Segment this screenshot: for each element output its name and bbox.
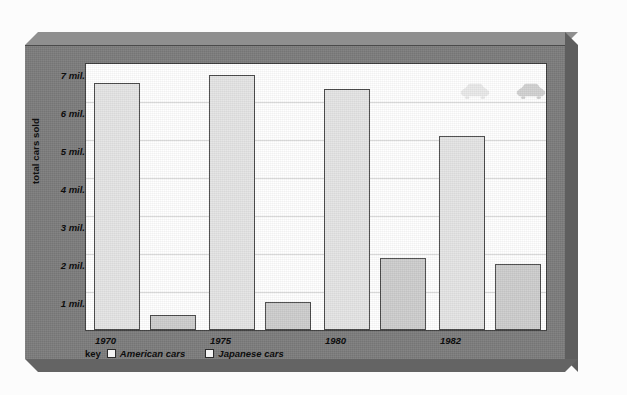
- bar-1980-american: [324, 89, 370, 330]
- chart-legend: key American cars Japanese cars: [85, 348, 284, 359]
- x-tick-label-1970: 1970: [95, 335, 116, 346]
- legend-entry-japanese[interactable]: Japanese cars: [205, 348, 284, 359]
- legend-key-label: key: [85, 348, 101, 359]
- legend-label-american: American cars: [120, 348, 185, 359]
- frame-bevel-top: [25, 32, 578, 45]
- x-tick-label-1975: 1975: [210, 335, 231, 346]
- frame-bevel-bottom: [25, 359, 578, 372]
- y-axis-tick-labels: 7 mil.6 mil.5 mil.4 mil.3 mil.2 mil.1 mi…: [39, 59, 85, 373]
- y-tick-label: 1 mil.: [39, 298, 85, 309]
- bar-1970-japanese: [150, 315, 196, 330]
- bar-series-group: [86, 64, 546, 330]
- bar-1980-japanese: [380, 258, 426, 330]
- plot-area: [85, 63, 547, 331]
- bar-1975-japanese: [265, 302, 311, 331]
- y-tick-label: 6 mil.: [39, 108, 85, 119]
- car-icon-japanese: [514, 82, 547, 102]
- bar-1970-american: [94, 83, 140, 330]
- legend-swatch-american: [107, 349, 116, 358]
- bar-1982-american: [439, 136, 485, 330]
- bar-1975-american: [209, 75, 255, 330]
- legend-label-japanese: Japanese cars: [218, 348, 284, 359]
- car-icon-american: [458, 82, 492, 102]
- y-tick-label: 5 mil.: [39, 146, 85, 157]
- legend-entry-american[interactable]: American cars: [107, 348, 185, 359]
- chart-screenshot: total cars sold 7 mil.6 mil.5 mil.4 mil.…: [0, 0, 627, 395]
- chart-face: total cars sold 7 mil.6 mil.5 mil.4 mil.…: [25, 45, 565, 359]
- y-tick-label: 3 mil.: [39, 222, 85, 233]
- y-tick-label: 7 mil.: [39, 70, 85, 81]
- legend-swatch-japanese: [205, 349, 214, 358]
- chart-frame: total cars sold 7 mil.6 mil.5 mil.4 mil.…: [25, 32, 578, 372]
- y-tick-label: 4 mil.: [39, 184, 85, 195]
- bar-1982-japanese: [495, 264, 541, 331]
- x-tick-label-1980: 1980: [325, 335, 346, 346]
- x-tick-label-1982: 1982: [440, 335, 461, 346]
- y-tick-label: 2 mil.: [39, 260, 85, 271]
- frame-bevel-right: [565, 32, 578, 372]
